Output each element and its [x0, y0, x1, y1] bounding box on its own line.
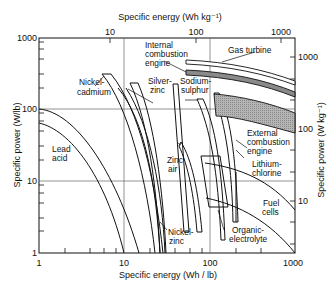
svg-text:10: 10 — [119, 258, 129, 268]
svg-text:1: 1 — [32, 248, 37, 258]
ragone-chart: Specific energy (Wh kg⁻¹) Specific energ… — [0, 0, 334, 290]
label-gas-turbine: Gas turbine — [228, 45, 272, 55]
svg-text:engine: engine — [247, 146, 272, 156]
svg-text:chlorine: chlorine — [252, 168, 282, 178]
svg-text:1: 1 — [36, 258, 41, 268]
svg-text:air: air — [168, 164, 178, 174]
svg-text:100: 100 — [188, 27, 203, 37]
svg-text:electrolyte: electrolyte — [229, 234, 268, 244]
svg-text:10: 10 — [105, 27, 115, 37]
svg-text:100: 100 — [202, 258, 217, 268]
svg-text:sulphur: sulphur — [181, 85, 209, 95]
svg-text:cells: cells — [262, 207, 279, 217]
label-nickel-cadmium: Nickel- — [79, 77, 105, 87]
svg-text:10: 10 — [298, 196, 308, 206]
chart-svg: Specific energy (Wh kg⁻¹) Specific energ… — [0, 0, 334, 290]
svg-text:1000: 1000 — [271, 27, 291, 37]
bottom-axis-title: Specific energy (Wh / lb) — [119, 270, 217, 280]
svg-text:100: 100 — [298, 124, 313, 134]
series-silver-zinc — [130, 83, 166, 253]
svg-text:zinc: zinc — [150, 85, 165, 95]
svg-text:cadmium: cadmium — [77, 87, 111, 97]
svg-text:10: 10 — [27, 176, 37, 186]
svg-text:engine: engine — [145, 58, 170, 68]
top-tick-labels: 10 100 1000 — [105, 27, 291, 37]
top-axis-title: Specific energy (Wh kg⁻¹) — [118, 12, 222, 22]
bottom-tick-labels: 1 10 100 1000 — [36, 258, 303, 268]
svg-text:1000: 1000 — [298, 52, 318, 62]
svg-text:1000: 1000 — [283, 258, 303, 268]
series-lead-acid-lower — [39, 123, 124, 253]
svg-text:zinc: zinc — [169, 236, 184, 246]
svg-text:1000: 1000 — [17, 33, 37, 43]
right-axis-title: Specific power (W kg⁻¹) — [316, 102, 326, 198]
svg-text:100: 100 — [22, 104, 37, 114]
left-axis-title: Specific power (W/lb) — [12, 102, 22, 187]
svg-text:acid: acid — [52, 153, 68, 163]
